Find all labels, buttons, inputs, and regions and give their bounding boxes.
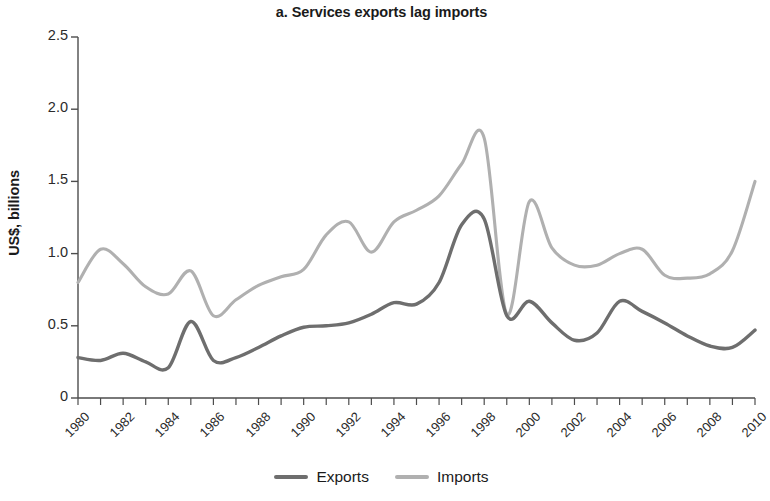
x-axis-ticks xyxy=(78,398,755,405)
chart-legend: Exports Imports xyxy=(0,468,763,486)
legend-label-exports: Exports xyxy=(316,468,369,486)
legend-swatch-imports xyxy=(395,475,429,479)
series-line-exports xyxy=(78,211,755,370)
series-line-imports xyxy=(78,130,755,316)
legend-label-imports: Imports xyxy=(437,468,489,486)
legend-item-exports: Exports xyxy=(274,468,369,486)
legend-item-imports: Imports xyxy=(395,468,489,486)
y-axis-ticks xyxy=(71,37,78,398)
legend-swatch-exports xyxy=(274,475,308,479)
